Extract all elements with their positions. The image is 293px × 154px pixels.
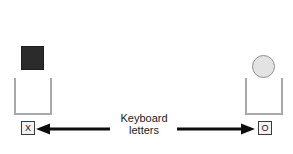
caption-line-2: letters — [110, 125, 178, 137]
key-o-label: O — [261, 124, 268, 133]
caption-line-1: Keyboard — [110, 113, 178, 125]
key-x-label: X — [25, 124, 31, 133]
arrow-left — [36, 122, 110, 136]
black-square-object — [21, 46, 44, 70]
gray-ball-object — [252, 55, 275, 78]
caption-keyboard-letters: Keyboard letters — [110, 113, 178, 136]
right-container — [245, 78, 283, 115]
arrow-right — [177, 122, 255, 136]
key-o[interactable]: O — [258, 121, 272, 135]
left-container — [14, 78, 52, 115]
diagram-canvas: X Keyboard letters O — [0, 0, 293, 154]
key-x[interactable]: X — [21, 121, 35, 135]
